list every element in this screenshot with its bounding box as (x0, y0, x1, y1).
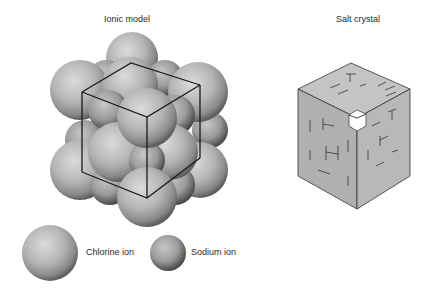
sodium-ion-label: Sodium ion (191, 247, 236, 257)
salt-crystal-cube (298, 63, 410, 209)
chlorine-ion-sphere (22, 225, 78, 281)
ionic-model (50, 32, 228, 227)
salt-crystal-title: Salt crystal (336, 14, 380, 24)
figure-canvas (0, 0, 440, 289)
chlorine-ion-label: Chlorine ion (86, 247, 134, 257)
ionic-model-title: Ionic model (104, 14, 150, 24)
sodium-ion-sphere (150, 235, 186, 271)
